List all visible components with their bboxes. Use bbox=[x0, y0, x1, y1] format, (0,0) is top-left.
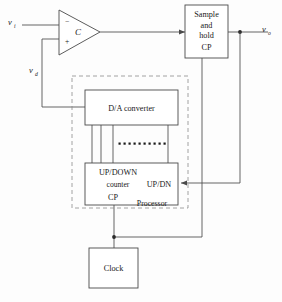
bus-ellipsis-dots bbox=[119, 143, 166, 145]
feedback-signal-symbol: v bbox=[29, 65, 33, 75]
counter-cp-label: CP bbox=[108, 193, 118, 202]
sample-hold-line-1: Sample bbox=[194, 10, 219, 19]
comparator-inverting-sign: − bbox=[65, 17, 69, 26]
arrow-into-updn-port bbox=[181, 181, 187, 186]
label-output-signal: v o bbox=[262, 24, 271, 36]
feedback-signal-subscript: d bbox=[35, 71, 38, 77]
sample-hold-line-2: and bbox=[201, 21, 213, 30]
processor-label: Processor bbox=[137, 199, 168, 208]
counter-line-1: UP/DOWN bbox=[99, 168, 137, 177]
block-diagram-figure: Sample and hold CP D/A converter UP/DOWN… bbox=[0, 0, 282, 302]
counter-line-2: counter bbox=[107, 180, 130, 189]
comparator-c-label: C bbox=[75, 27, 82, 37]
counter-updn-port-label: UP/DN bbox=[147, 180, 172, 189]
arrow-into-sample-hold bbox=[179, 30, 185, 35]
sample-hold-cp-label: CP bbox=[201, 43, 211, 52]
comparator-noninverting-sign: + bbox=[65, 37, 69, 46]
junction-dot-clock bbox=[112, 235, 116, 239]
output-signal-symbol: v bbox=[262, 24, 266, 34]
input-signal-symbol: v bbox=[8, 17, 12, 27]
output-signal-subscript: o bbox=[268, 30, 271, 36]
wire-clock-to-sample-hold-cp bbox=[114, 58, 202, 237]
clock-label: Clock bbox=[104, 264, 124, 273]
label-input-signal: v i bbox=[8, 17, 16, 29]
da-converter-label: D/A converter bbox=[108, 104, 155, 113]
input-signal-subscript: i bbox=[14, 23, 16, 29]
sample-hold-line-3: hold bbox=[199, 31, 214, 40]
diagram-canvas: Sample and hold CP D/A converter UP/DOWN… bbox=[0, 0, 282, 302]
label-feedback-signal: v d bbox=[29, 65, 38, 77]
